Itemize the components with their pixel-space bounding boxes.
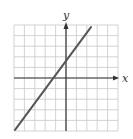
x-axis-label: x	[122, 72, 129, 85]
axes	[14, 22, 119, 131]
y-axis-label: y	[62, 9, 70, 22]
chart: x y	[0, 0, 133, 139]
y-axis-arrow-icon	[64, 22, 69, 29]
